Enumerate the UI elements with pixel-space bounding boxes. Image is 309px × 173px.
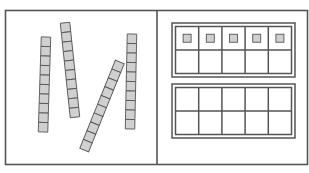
- unit-cube: [276, 34, 284, 42]
- unit-cube: [183, 34, 191, 42]
- unit-cube: [127, 43, 137, 53]
- unit-cube: [64, 60, 74, 70]
- unit-cube: [253, 34, 261, 42]
- unit-cube: [69, 107, 79, 117]
- unit-cube: [126, 81, 136, 91]
- unit-cube: [41, 46, 51, 56]
- unit-cube: [40, 65, 50, 75]
- unit-cube: [126, 100, 136, 110]
- unit-cube: [66, 79, 76, 89]
- ten-frame: [172, 84, 295, 138]
- unit-cube: [230, 34, 238, 42]
- unit-cube: [40, 56, 50, 66]
- unit-cube: [60, 22, 70, 32]
- unit-cube: [126, 91, 136, 101]
- unit-cube: [127, 34, 137, 44]
- unit-cube: [38, 122, 48, 132]
- unit-cube: [61, 32, 71, 42]
- unit-cube: [63, 51, 73, 61]
- unit-cube: [39, 84, 49, 94]
- unit-cube: [62, 41, 72, 51]
- base-ten-diagram: [0, 0, 309, 173]
- diagram-canvas: [0, 0, 309, 173]
- unit-cube: [39, 94, 49, 104]
- unit-cube: [41, 37, 51, 47]
- unit-cube: [67, 88, 77, 98]
- ten-rod: [125, 34, 136, 129]
- ten-frame: [172, 23, 295, 77]
- unit-cube: [126, 62, 136, 72]
- unit-cube: [125, 110, 135, 120]
- unit-cube: [127, 53, 137, 63]
- unit-cube: [39, 113, 49, 123]
- unit-cube: [65, 70, 75, 80]
- unit-cube: [126, 72, 136, 82]
- unit-cube: [68, 98, 78, 108]
- unit-cube: [206, 34, 214, 42]
- unit-cube: [40, 75, 50, 85]
- unit-cube: [39, 103, 49, 113]
- unit-cube: [125, 119, 135, 129]
